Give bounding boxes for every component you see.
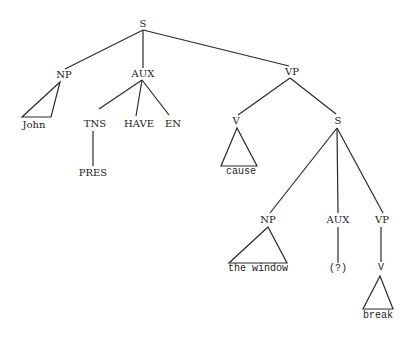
edge-s2-np xyxy=(270,128,337,213)
edge-aux-tns xyxy=(99,80,142,109)
leaf-aux-unknown: (?) xyxy=(329,264,347,274)
edge-vp-s xyxy=(290,78,336,114)
node-s-root: S xyxy=(140,19,147,29)
node-s-embedded: S xyxy=(335,116,342,126)
leaf-cause: cause xyxy=(226,167,256,177)
node-np-embedded: NP xyxy=(260,215,275,225)
node-aux-embedded: AUX xyxy=(327,215,350,225)
edge-s2-aux xyxy=(337,128,338,213)
node-have: HAVE xyxy=(124,119,154,129)
leaf-break: break xyxy=(363,311,393,321)
edge-s2-vp xyxy=(337,128,383,213)
edge-s-np xyxy=(65,30,143,69)
edge-s-vp xyxy=(143,30,289,66)
triangle-john xyxy=(22,82,60,117)
edge-vp-v xyxy=(238,78,290,115)
node-v-main: V xyxy=(232,116,239,126)
triangle-break xyxy=(363,276,393,309)
leaf-pres: PRES xyxy=(79,168,107,178)
edge-aux-have xyxy=(136,80,142,116)
edge-aux-en xyxy=(142,80,169,115)
node-vp-embedded: VP xyxy=(375,215,389,225)
triangle-cause xyxy=(221,128,257,166)
leaf-john: John xyxy=(23,120,46,130)
node-v-embedded: V xyxy=(378,263,384,273)
node-vp-main: VP xyxy=(285,67,299,77)
syntax-tree-lines xyxy=(0,0,410,339)
node-aux-main: AUX xyxy=(132,69,155,79)
leaf-the-window: the window xyxy=(228,264,288,274)
triangle-the-window xyxy=(229,227,287,263)
node-tns: TNS xyxy=(84,119,106,129)
node-en: EN xyxy=(165,119,181,129)
node-np-subject: NP xyxy=(56,70,71,80)
